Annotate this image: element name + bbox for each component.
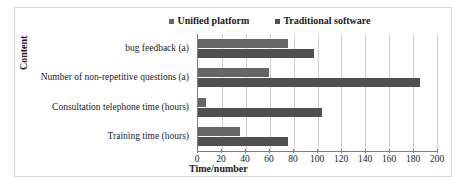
y-axis-category-labels: bug feedback (a) Number of non-repetitiv…: [28, 34, 193, 152]
bar-group: [198, 34, 437, 63]
bar-group: [198, 122, 437, 151]
x-axis-tick-label: 80: [288, 153, 298, 165]
y-axis-tick-label: Consultation telephone time (hours): [28, 93, 193, 123]
bar-group: [198, 63, 437, 92]
x-axis-tick-mark: [269, 149, 270, 153]
bar-group: [198, 93, 437, 122]
bar-unified-platform: [198, 68, 269, 77]
bar-unified-platform: [198, 98, 206, 107]
x-axis-tick-label: 160: [382, 153, 396, 165]
x-axis-tick-label: 60: [264, 153, 274, 165]
bar-traditional-software: [198, 49, 314, 58]
x-axis-tick-label: 200: [430, 153, 444, 165]
x-axis-tick-mark: [365, 149, 366, 153]
x-axis-title: Time/number: [189, 164, 248, 174]
x-axis-tick-label: 180: [406, 153, 420, 165]
legend-swatch-icon: [275, 19, 280, 24]
legend-item-unified-platform: Unified platform: [169, 16, 249, 26]
x-axis-tick-label: 140: [358, 153, 372, 165]
bar-unified-platform: [198, 39, 288, 48]
x-axis-tick-label: 100: [310, 153, 324, 165]
bar-groups: [198, 34, 437, 151]
x-axis-tick-mark: [197, 149, 198, 153]
x-axis-tick-mark: [413, 149, 414, 153]
x-axis-tick-mark: [437, 149, 438, 153]
bar-traditional-software: [198, 108, 322, 117]
x-axis-tick-mark: [293, 149, 294, 153]
chart-legend: Unified platform Traditional software: [120, 14, 420, 28]
x-axis-tick-mark: [221, 149, 222, 153]
gridline: [437, 34, 438, 151]
bar-traditional-software: [198, 137, 288, 146]
y-axis-tick-label: Number of non-repetitive questions (a): [28, 64, 193, 94]
bar-unified-platform: [198, 127, 240, 136]
plot-area: [197, 34, 437, 152]
legend-label: Unified platform: [177, 16, 249, 26]
x-axis-tick-mark: [341, 149, 342, 153]
x-axis-tick-mark: [389, 149, 390, 153]
legend-label: Traditional software: [283, 16, 370, 26]
bar-traditional-software: [198, 78, 420, 87]
chart-figure: Unified platform Traditional software Co…: [0, 0, 460, 191]
x-axis-tick-mark: [245, 149, 246, 153]
legend-item-traditional-software: Traditional software: [275, 16, 370, 26]
y-axis-tick-label: Training time (hours): [28, 123, 193, 153]
y-axis-tick-label: bug feedback (a): [28, 34, 193, 64]
legend-swatch-icon: [169, 19, 174, 24]
x-axis-tick-mark: [317, 149, 318, 153]
x-axis-tick-label: 120: [334, 153, 348, 165]
